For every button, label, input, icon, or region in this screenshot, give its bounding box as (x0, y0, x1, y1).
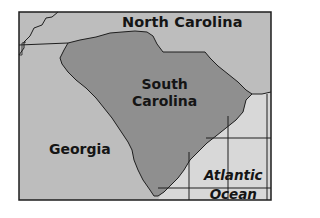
label-georgia: Georgia (49, 142, 111, 156)
label-atlantic-ocean-line2: Ocean (204, 185, 263, 204)
label-atlantic-ocean: Atlantic Ocean (204, 166, 263, 204)
label-atlantic-ocean-line1: Atlantic (204, 166, 263, 185)
label-south-carolina-line1: South (132, 76, 197, 93)
label-north-carolina: North Carolina (122, 15, 243, 30)
label-south-carolina: South Carolina (132, 76, 197, 110)
label-south-carolina-line2: Carolina (132, 93, 197, 110)
